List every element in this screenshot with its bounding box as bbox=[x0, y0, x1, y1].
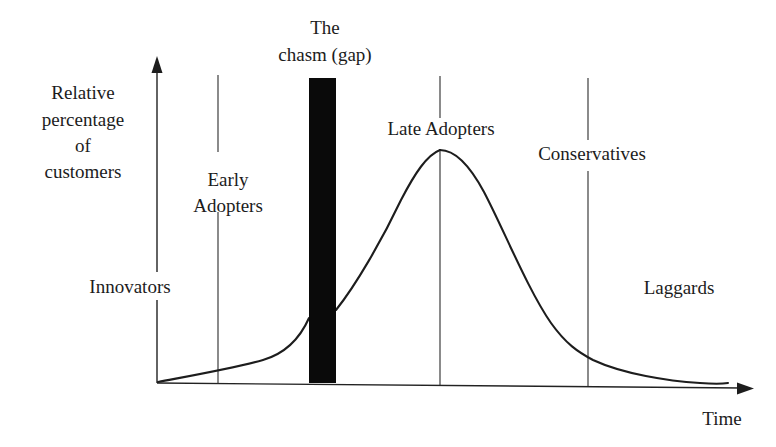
y-axis-title-line-3: of bbox=[75, 135, 92, 156]
y-axis-title-line-1: Relative bbox=[51, 82, 114, 103]
segment-label-late-adopters: Late Adopters bbox=[387, 118, 494, 139]
curve-segment-decline bbox=[440, 150, 728, 384]
curve-segment-early bbox=[158, 318, 309, 382]
segment-label-laggards: Laggards bbox=[644, 277, 715, 298]
adoption-lifecycle-diagram: Relative percentage of customers Innovat… bbox=[0, 0, 776, 447]
adoption-curve-canvas: Relative percentage of customers Innovat… bbox=[0, 0, 776, 447]
chasm-label-line-2: chasm (gap) bbox=[278, 44, 371, 66]
x-axis-title: Time bbox=[702, 408, 741, 429]
axis-group bbox=[152, 56, 755, 395]
segment-label-early-adopters-line-1: Early bbox=[207, 169, 249, 190]
x-axis-line bbox=[157, 383, 742, 388]
segment-label-early-adopters-line-2: Adopters bbox=[193, 195, 263, 216]
segment-label-conservatives: Conservatives bbox=[538, 143, 646, 164]
chasm-label-line-1: The bbox=[310, 17, 340, 38]
y-axis-arrow-icon bbox=[152, 56, 163, 73]
label-group: Relative percentage of customers Innovat… bbox=[42, 17, 742, 429]
chasm-bar bbox=[309, 78, 336, 383]
x-axis-arrow-icon bbox=[737, 383, 754, 395]
segment-label-innovators: Innovators bbox=[89, 276, 170, 297]
y-axis-title-line-2: percentage bbox=[42, 109, 124, 130]
curve-segment-rise bbox=[336, 150, 440, 310]
y-axis-title-line-4: customers bbox=[44, 161, 121, 182]
